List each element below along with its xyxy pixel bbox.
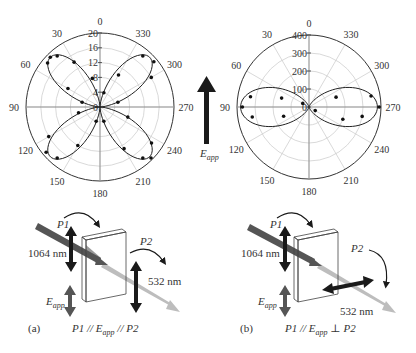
grid-spoke <box>309 107 345 169</box>
wavelength-in-a: 1064 nm <box>28 247 67 259</box>
data-point <box>149 76 153 80</box>
data-point <box>360 115 364 119</box>
angle-tick-label: 180 <box>302 186 317 197</box>
relation-a: P1 // Eapp // P2 <box>71 322 139 337</box>
panel-label-a: (a) <box>28 322 41 335</box>
relation-b: P1 // Eapp ⊥ P2 <box>284 322 356 337</box>
data-point <box>250 115 254 119</box>
angle-tick-label: 330 <box>136 28 151 39</box>
data-point <box>102 119 106 123</box>
data-point <box>369 94 373 98</box>
grid-spoke <box>309 71 371 107</box>
data-point <box>76 144 80 148</box>
eapp-label-b: Eapp <box>257 295 277 310</box>
radial-tick-label: 400 <box>292 30 307 41</box>
angle-tick-label: 90 <box>220 102 230 113</box>
radial-tick-label: 100 <box>292 84 307 95</box>
angle-tick-label: 90 <box>9 102 19 113</box>
data-point <box>102 91 106 95</box>
angle-tick-label: 300 <box>374 60 389 71</box>
data-point <box>377 105 381 109</box>
eapp-arrow-a <box>64 285 76 317</box>
data-point <box>301 102 305 106</box>
radial-tick-label: 12 <box>88 57 98 68</box>
angle-tick-label: 210 <box>136 176 151 187</box>
grid-spoke <box>36 107 100 144</box>
angle-tick-label: 270 <box>386 102 401 113</box>
p1-label-b: P1 <box>269 218 282 230</box>
wavelength-out-b: 532 nm <box>340 305 374 317</box>
eapp-label-center: Eapp <box>199 147 219 162</box>
data-point <box>150 141 154 145</box>
angle-tick-label: 0 <box>98 16 103 27</box>
p2-label-b: P2 <box>350 242 364 254</box>
data-point <box>55 156 59 160</box>
angle-tick-label: 330 <box>344 29 359 40</box>
eapp-arrow-b <box>279 285 291 317</box>
data-point <box>141 156 145 160</box>
eapp-label-a: Eapp <box>45 295 65 310</box>
angle-tick-label: 150 <box>50 176 65 187</box>
data-point <box>126 115 130 119</box>
polar-plot-right: 0100200300400030609012015018021024027030… <box>220 18 401 197</box>
data-point <box>55 54 59 58</box>
angle-tick-label: 300 <box>167 59 182 70</box>
data-point <box>117 73 121 77</box>
data-point <box>241 105 245 109</box>
figure: 0481216200306090120150180210240270300330… <box>0 0 416 353</box>
data-point <box>280 96 284 100</box>
wavelength-in-b: 1064 nm <box>241 247 280 259</box>
grid-spoke <box>247 107 309 143</box>
wavelength-out-a: 532 nm <box>148 275 182 287</box>
radial-tick-label: 300 <box>292 48 307 59</box>
grid-spoke <box>273 107 309 169</box>
angle-tick-label: 120 <box>18 145 33 156</box>
p2-polarization-arrow-b <box>322 276 374 294</box>
data-point <box>141 54 145 58</box>
rotate-arrow-p2-a <box>130 249 164 262</box>
panel-label-b: (b) <box>240 322 253 335</box>
angle-tick-label: 210 <box>344 175 359 186</box>
grid-spoke <box>309 45 345 107</box>
data-point <box>152 60 156 64</box>
data-point <box>66 87 70 91</box>
angle-tick-label: 240 <box>374 144 389 155</box>
data-point <box>44 150 48 154</box>
polar-plot-left: 0481216200306090120150180210240270300330 <box>9 16 194 199</box>
data-point <box>46 61 50 65</box>
data-point <box>91 77 95 81</box>
radial-tick-label: 20 <box>88 28 98 39</box>
data-point <box>334 95 338 99</box>
eapp-arrow-center <box>197 76 216 144</box>
angle-tick-label: 180 <box>93 188 108 199</box>
data-point <box>249 95 253 99</box>
data-point <box>72 60 76 64</box>
grid-spoke <box>63 107 100 171</box>
data-point <box>122 147 126 151</box>
data-point <box>48 55 52 59</box>
data-point <box>149 156 153 160</box>
data-point <box>341 118 345 122</box>
angle-tick-label: 120 <box>229 144 244 155</box>
angle-tick-label: 60 <box>21 59 31 70</box>
data-point <box>116 100 120 104</box>
angle-tick-label: 60 <box>231 60 241 71</box>
data-point <box>313 109 317 113</box>
angle-tick-label: 30 <box>262 29 272 40</box>
data-point <box>77 111 81 115</box>
angle-tick-label: 270 <box>179 102 194 113</box>
data-point <box>47 135 51 139</box>
p2-label-a: P2 <box>139 235 153 247</box>
data-point <box>94 119 98 123</box>
angle-tick-label: 240 <box>167 145 182 156</box>
radial-tick-label: 16 <box>88 42 98 53</box>
p1-label-a: P1 <box>56 218 69 230</box>
radial-tick-label: 200 <box>292 66 307 77</box>
grid-spoke <box>309 107 371 143</box>
grid-spoke <box>100 107 137 171</box>
angle-tick-label: 150 <box>260 175 275 186</box>
angle-tick-label: 0 <box>307 18 312 29</box>
data-point <box>282 114 286 118</box>
grid-spoke <box>100 107 164 144</box>
data-point <box>80 100 84 104</box>
